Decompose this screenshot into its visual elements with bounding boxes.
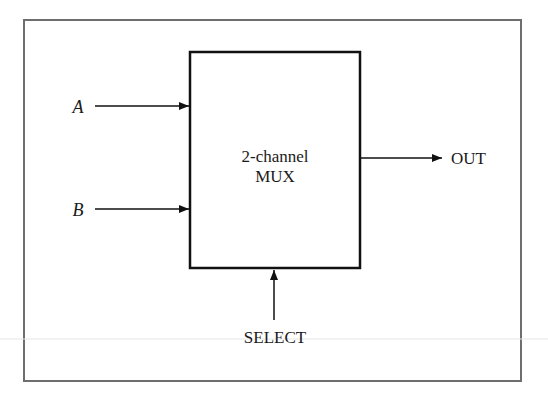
select-label: SELECT [244, 328, 307, 347]
input-a-label: A [72, 97, 85, 117]
output-label: OUT [451, 149, 487, 168]
input-b-label: B [73, 200, 84, 220]
mux-label-line2: MUX [255, 167, 295, 186]
mux-diagram: 2-channel MUX A B OUT SELECT [0, 0, 548, 395]
mux-label-line1: 2-channel [241, 147, 308, 166]
